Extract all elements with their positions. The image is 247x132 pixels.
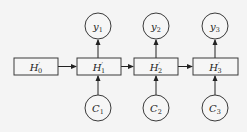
output-node-y3: y3 bbox=[202, 13, 228, 39]
hidden-state-h3: H′3 bbox=[193, 58, 238, 75]
input-node-c1: C1 bbox=[85, 95, 111, 121]
input-node-c3: C3 bbox=[202, 95, 228, 121]
hidden-state-h0: H′0 bbox=[14, 58, 58, 75]
diagram-canvas: H′0 H′1 H′2 H′3 y1 y2 y3 C1 C2 bbox=[0, 0, 247, 132]
hidden-state-h1: H′1 bbox=[77, 58, 121, 75]
hidden-state-h2: H′2 bbox=[134, 58, 178, 75]
input-node-c2: C2 bbox=[143, 95, 169, 121]
output-node-y1: y1 bbox=[85, 13, 111, 39]
output-node-y2: y2 bbox=[143, 13, 169, 39]
